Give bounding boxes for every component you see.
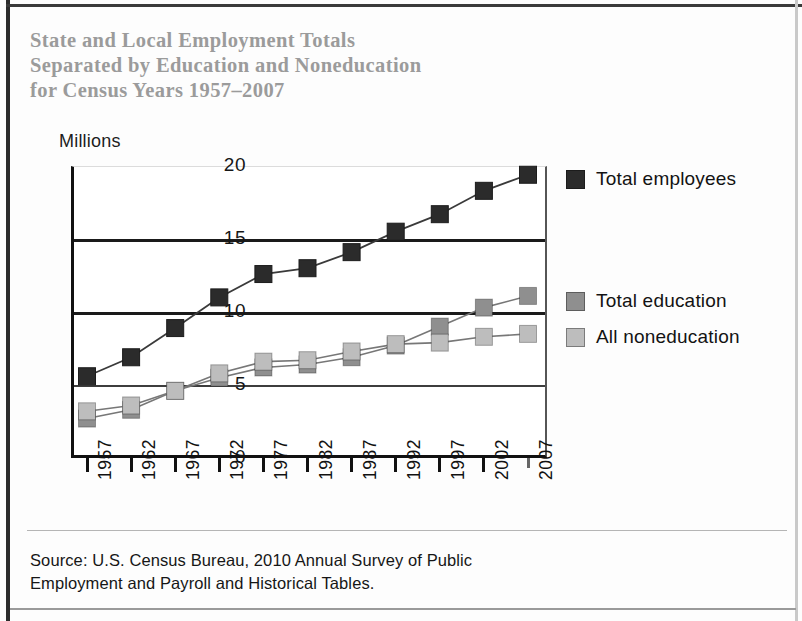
plot-area xyxy=(71,166,547,458)
y-axis-unit-label: Millions xyxy=(59,131,121,152)
x-tick-1967 xyxy=(174,458,177,472)
x-tick-label-2007: 2007 xyxy=(536,439,557,480)
x-tick-1992 xyxy=(394,458,397,472)
page-edge-top xyxy=(6,4,802,7)
chart-figure: State and Local Employment Totals Separa… xyxy=(0,0,802,621)
y-tick-label-5: 5 xyxy=(206,373,246,395)
legend-swatch-icon xyxy=(566,328,585,347)
legend-label: Total education xyxy=(596,290,727,312)
x-tick-1972 xyxy=(218,458,221,472)
source-divider xyxy=(27,530,787,531)
y-tick-label-20: 20 xyxy=(206,154,246,176)
x-tick-1997 xyxy=(438,458,441,472)
x-tick-label-1977: 1977 xyxy=(271,439,292,480)
legend-swatch-icon xyxy=(566,292,585,311)
x-tick-label-1992: 1992 xyxy=(404,439,425,480)
page-edge-bottom xyxy=(10,608,796,610)
x-tick-label-1997: 1997 xyxy=(448,439,469,480)
x-tick-1962 xyxy=(130,458,133,472)
x-tick-1977 xyxy=(262,458,265,472)
gridline-20 xyxy=(74,166,545,167)
source-note-line-1: Source: U.S. Census Bureau, 2010 Annual … xyxy=(30,549,590,572)
x-tick-label-2002: 2002 xyxy=(492,439,513,480)
x-tick-label-1962: 1962 xyxy=(139,439,160,480)
y-tick-label-10: 10 xyxy=(206,300,246,322)
x-tick-label-1982: 1982 xyxy=(316,439,337,480)
legend-label: Total employees xyxy=(596,168,736,190)
chart-title-line-2: Separated by Education and Noneducation xyxy=(30,53,550,78)
x-tick-label-1967: 1967 xyxy=(183,439,204,480)
chart-title: State and Local Employment Totals Separa… xyxy=(30,28,550,103)
page-edge-right xyxy=(795,0,798,621)
x-tick-1987 xyxy=(350,458,353,472)
chart-title-line-3: for Census Years 1957–2007 xyxy=(30,78,550,103)
page-edge-left xyxy=(6,0,10,621)
source-note: Source: U.S. Census Bureau, 2010 Annual … xyxy=(30,549,590,595)
x-tick-label-1972: 1972 xyxy=(227,439,248,480)
x-tick-label-1987: 1987 xyxy=(360,439,381,480)
legend-item-total-education[interactable]: Total education xyxy=(566,290,727,312)
legend-label: All noneducation xyxy=(596,326,740,348)
y-tick-label-15: 15 xyxy=(206,227,246,249)
gridline-5 xyxy=(74,385,545,387)
legend-item-total-employees[interactable]: Total employees xyxy=(566,168,736,190)
chart-title-line-1: State and Local Employment Totals xyxy=(30,28,550,53)
legend-item-all-noneducation[interactable]: All noneducation xyxy=(566,326,740,348)
legend-swatch-icon xyxy=(566,170,585,189)
x-tick-1957 xyxy=(86,458,89,472)
x-tick-2002 xyxy=(482,458,485,472)
x-tick-label-1957: 1957 xyxy=(95,439,116,480)
x-tick-1982 xyxy=(306,458,309,472)
gridline-10 xyxy=(74,312,545,315)
x-tick-2007 xyxy=(527,458,530,468)
gridline-15 xyxy=(74,239,545,242)
source-note-line-2: Employment and Payroll and Historical Ta… xyxy=(30,572,590,595)
